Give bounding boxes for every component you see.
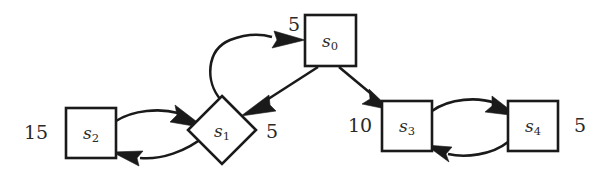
edge-s0-to-s1-path [262, 67, 318, 103]
edge-s0-to-s1 [241, 67, 318, 116]
weight-label-s3: 10 [348, 114, 372, 136]
node-s1[interactable]: s1 [188, 96, 256, 164]
node-s2[interactable]: s2 [66, 108, 116, 158]
edge-s2-to-s1-path [116, 110, 178, 121]
edge-s4-to-s3-path [448, 142, 508, 156]
node-s3[interactable]: s3 [382, 101, 432, 151]
edge-s1-to-s0 [210, 31, 305, 100]
weight-label-s0: 5 [288, 13, 300, 35]
diagram-canvas: s0 s1 s2 s3 s4 [0, 0, 613, 180]
edge-s3-to-s4 [432, 96, 518, 116]
node-s4[interactable]: s4 [508, 101, 558, 151]
state-transition-diagram: s0 s1 s2 s3 s4 [0, 0, 613, 180]
edge-s3-to-s4-path [432, 99, 495, 111]
weight-label-s2: 15 [24, 121, 48, 143]
edge-s1-to-s2 [112, 135, 206, 166]
node-s0[interactable]: s0 [305, 15, 356, 66]
edge-s1-to-s0-path [210, 35, 272, 100]
edge-s4-to-s3 [426, 142, 508, 162]
weight-label-s1: 5 [266, 120, 278, 142]
weight-label-s4: 5 [574, 114, 586, 136]
